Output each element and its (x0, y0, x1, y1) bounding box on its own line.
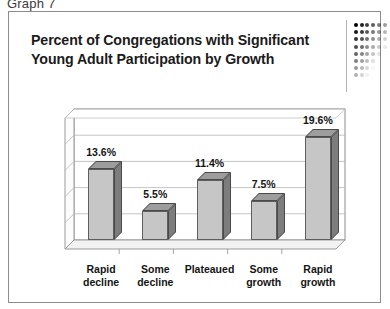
bar-front-face (197, 180, 223, 240)
bar-front-face (88, 169, 114, 240)
bar-chart: 13.6%5.5%11.4%7.5%19.6% (65, 100, 355, 260)
chart-axis-ticks (119, 249, 282, 254)
bar-5: 19.6% (305, 137, 331, 240)
bar-front-face (305, 137, 331, 240)
page-title-line-2: Young Adult Participation by Growth (31, 50, 331, 69)
bar-3: 11.4% (197, 180, 223, 240)
bar-value-label: 5.5% (143, 188, 167, 200)
bar-value-label: 11.4% (195, 157, 224, 169)
category-axis-labels: RapiddeclineSomedeclinePlateauedSomegrow… (65, 263, 365, 295)
page-title: Percent of Congregations with Significan… (31, 31, 331, 69)
title-divider (346, 20, 347, 92)
dot-grid-decoration-icon (354, 23, 388, 85)
bar-side-face (223, 172, 231, 240)
bar-value-label: 7.5% (252, 178, 276, 190)
bar-value-label: 19.6% (303, 114, 333, 126)
bar-side-face (114, 161, 122, 240)
graph-caption: Graph 7 (7, 0, 55, 11)
plot-area: 13.6%5.5%11.4%7.5%19.6% (74, 109, 345, 240)
category-label-line-2: growth (278, 276, 358, 289)
page-title-line-1: Percent of Congregations with Significan… (31, 31, 331, 50)
bar-4: 7.5% (251, 201, 277, 240)
bar-1: 13.6% (88, 169, 114, 240)
bar-front-face (142, 211, 168, 240)
category-label-line-2: decline (115, 276, 195, 289)
category-label-line-1: Rapid (278, 263, 358, 276)
category-label-5: Rapidgrowth (278, 263, 358, 289)
bar-2: 5.5% (142, 211, 168, 240)
slide-frame: Percent of Congregations with Significan… (8, 11, 381, 303)
bar-side-face (331, 129, 339, 240)
bar-front-face (251, 201, 277, 240)
bar-value-label: 13.6% (86, 146, 116, 158)
